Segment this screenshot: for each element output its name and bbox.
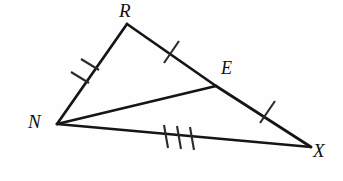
segment-NX — [57, 124, 311, 147]
tick-NR-1 — [81, 59, 99, 70]
triangle-nrx-diagram — [0, 0, 343, 181]
tick-NR-2 — [71, 72, 89, 83]
vertex-label-n: N — [28, 112, 41, 131]
geometry-figure-container: R N E X — [0, 0, 343, 181]
tick-NX-2 — [177, 126, 181, 149]
vertex-label-r: R — [119, 1, 131, 20]
tick-NX-3 — [190, 127, 194, 150]
tick-NX-1 — [164, 125, 168, 148]
segment-RE — [127, 24, 216, 86]
vertex-label-e: E — [221, 59, 232, 77]
vertex-label-x: X — [313, 141, 325, 160]
